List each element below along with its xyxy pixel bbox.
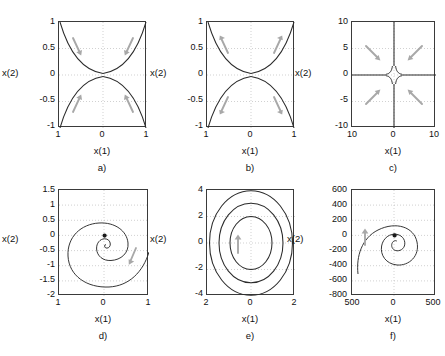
panel-b-plot-area	[206, 21, 294, 127]
panel-d-spiral	[68, 223, 149, 287]
panel-e-orbit-inner	[230, 217, 272, 270]
panel-e-tag: e)	[220, 331, 280, 341]
panel-c-x-axis-label: x(1)	[363, 146, 423, 156]
panel-e-plot-svg	[207, 190, 295, 296]
panel-e-ytick-m4: -4	[176, 289, 203, 298]
panel-d-x-axis-label: x(1)	[73, 314, 133, 324]
panel-b-arrow-upper-left	[219, 35, 228, 53]
panel-f-xtick-right: 500	[420, 298, 445, 307]
panel-f-x-axis-label: x(1)	[363, 314, 423, 324]
panel-f-xtick-left: 500	[339, 298, 365, 307]
panel-d-tag: d)	[73, 331, 133, 341]
panel-c-plot-svg	[352, 22, 436, 128]
panel-f-plot-svg	[352, 190, 436, 296]
panel-b-ytick-05: 0.5	[176, 43, 203, 52]
panel-b-xtick-center: 0	[240, 130, 260, 139]
panel-a-ytick-0: 0	[34, 69, 55, 78]
panel-b-curve-upper-left	[208, 22, 251, 73]
panel-c-ytick-0: 0	[328, 69, 348, 78]
panel-d-plot-svg	[59, 190, 149, 296]
panel-f-ytick-m200: -200	[309, 245, 347, 254]
panel-a-arrow-lower-right	[124, 94, 133, 112]
panel-c-tag: c)	[363, 163, 423, 173]
panel-d-fixed-point	[103, 234, 107, 238]
panel-b-y-axis-label: x(2)	[150, 68, 184, 78]
panel-a-curve-upper-right	[103, 22, 146, 73]
panel-a-arrow-upper-left	[73, 38, 82, 56]
panel-a-curve-lower-left	[60, 77, 103, 128]
panel-b-ytick-1: 1	[182, 17, 203, 26]
panel-f-ytick-m400: -400	[309, 260, 347, 269]
panel-b-curve-lower-right	[251, 77, 294, 128]
panel-b-xtick-right: 1	[284, 130, 304, 139]
panel-c-branch-q2	[386, 66, 392, 74]
panel-d-xtick-left: 1	[48, 298, 68, 307]
panel-a-ytick-m1: -1	[30, 121, 55, 130]
panel-c-xtick-center: 0	[383, 130, 403, 139]
panel-e-arrow-flow	[235, 235, 242, 253]
panel-a-plot-area	[58, 21, 146, 127]
panel-f-y-axis-label: x(2)	[287, 234, 321, 244]
panel-c-xtick-right: 10	[423, 130, 445, 139]
panel-a-xtick-left: 1	[48, 130, 68, 139]
panel-b-ytick-m05: -0.5	[172, 95, 203, 104]
panel-a-y-axis-label: x(2)	[2, 68, 36, 78]
panel-b-plot-svg	[207, 22, 295, 128]
panel-b-curve-upper-right	[251, 22, 294, 73]
panel-b-curve-lower-left	[208, 77, 251, 128]
panel-b-arrow-upper-right	[274, 35, 283, 53]
panel-b-xtick-left: 1	[196, 130, 216, 139]
panel-d-ytick-0: 0	[34, 230, 55, 239]
panel-e-xtick-left: 2	[196, 298, 216, 307]
panel-a-tag: a)	[72, 163, 132, 173]
panel-b-arrow-lower-right	[274, 97, 283, 115]
panel-e-ytick-4: 4	[182, 185, 203, 194]
panel-f-ytick-600: 600	[315, 185, 347, 194]
panel-c-ytick-5: 5	[328, 43, 348, 52]
panel-a-curve-upper-left	[60, 22, 103, 73]
panel-d-ytick-m1: -1	[30, 260, 55, 269]
panel-c-ytick-10: 10	[322, 17, 348, 26]
panel-c-branch-q1	[396, 66, 402, 74]
panel-c-plot-area	[351, 21, 435, 127]
panel-e-x-axis-label: x(1)	[220, 314, 280, 324]
panel-e-ytick-0: 0	[182, 237, 203, 246]
panel-e-orbit-outer	[210, 191, 293, 296]
panel-e-xtick-center: 0	[240, 298, 260, 307]
panel-c-y-axis-label: x(2)	[295, 68, 329, 78]
panel-a-arrow-upper-right	[124, 38, 133, 56]
panel-d-ytick-m05: -0.5	[24, 245, 55, 254]
panel-f-ytick-200: 200	[315, 215, 347, 224]
panel-f-fixed-point	[393, 233, 397, 237]
panel-a-ytick-1: 1	[34, 17, 55, 26]
panel-a-ytick-m05: -0.5	[24, 95, 55, 104]
panel-e-xtick-right: 2	[284, 298, 304, 307]
panel-d-plot-area	[58, 189, 148, 295]
panel-d-ytick-m15: -1.5	[20, 275, 55, 284]
panel-c-ytick-m10: -10	[316, 121, 348, 130]
panel-a-curve-lower-right	[103, 77, 146, 128]
panel-d-arrow-flow	[129, 248, 136, 265]
panel-e-ytick-m2: -2	[176, 263, 203, 272]
panel-d-xtick-right: 1	[138, 298, 158, 307]
panel-c-xtick-left: 10	[341, 130, 363, 139]
panel-e-ytick-2: 2	[182, 211, 203, 220]
panel-f-arrow-flow	[362, 229, 369, 245]
panel-e-y-axis-label: x(2)	[150, 234, 184, 244]
panel-a-xtick-right: 1	[136, 130, 156, 139]
panel-d-ytick-05: 0.5	[28, 215, 55, 224]
panel-b-ytick-m1: -1	[178, 121, 203, 130]
panel-b-ytick-0: 0	[182, 69, 203, 78]
panel-f-plot-area	[351, 189, 435, 295]
panel-a-x-axis-label: x(1)	[72, 146, 132, 156]
panel-e-plot-area	[206, 189, 294, 295]
panel-c-ytick-m5: -5	[322, 95, 348, 104]
panel-f-ytick-0: 0	[327, 230, 347, 239]
panel-a-plot-svg	[59, 22, 147, 128]
panel-d-y-axis-label: x(2)	[2, 234, 36, 244]
panel-c-branch-q4	[396, 76, 402, 84]
panel-c-branch-q3	[386, 76, 392, 84]
panel-a-ytick-05: 0.5	[28, 43, 55, 52]
panel-f-xtick-center: 0	[383, 298, 403, 307]
